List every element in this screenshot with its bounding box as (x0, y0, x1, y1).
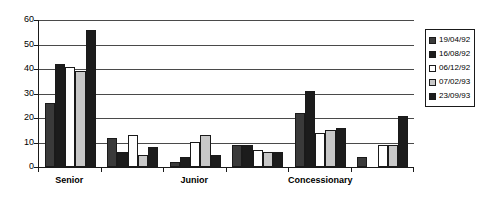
chart-legend: 19/04/9216/08/9206/12/9207/02/9323/09/93 (425, 29, 475, 107)
bar (232, 145, 242, 167)
x-tick (101, 168, 102, 172)
bar (65, 67, 75, 167)
legend-item[interactable]: 19/04/92 (429, 33, 470, 47)
bar (242, 145, 252, 167)
legend-item-label: 19/04/92 (439, 36, 470, 44)
bar (107, 138, 117, 167)
x-tick (226, 168, 227, 172)
legend-item[interactable]: 23/09/93 (429, 89, 470, 103)
bar (117, 152, 127, 167)
y-tick-label-20: 20 (24, 113, 34, 122)
bar (170, 162, 180, 167)
bar (45, 103, 55, 167)
bar (398, 116, 408, 167)
legend-item[interactable]: 07/02/93 (429, 75, 470, 89)
legend-item-label: 06/12/92 (439, 64, 470, 72)
bar-group (164, 20, 227, 167)
x-tick (288, 168, 289, 172)
bar (263, 152, 273, 167)
y-tick-label-60: 60 (24, 15, 34, 24)
x-axis-label-junior: Junior (163, 175, 226, 185)
legend-item[interactable]: 16/08/92 (429, 47, 470, 61)
y-tick-label-30: 30 (24, 89, 34, 98)
y-axis-labels: 0102030405060 (4, 20, 34, 168)
bar-group (227, 20, 290, 167)
x-axis-label-senior: Senior (38, 175, 101, 185)
legend-item[interactable]: 06/12/92 (429, 61, 470, 75)
bar (190, 142, 200, 167)
bar (378, 145, 388, 167)
bar (200, 135, 210, 167)
y-tick-label-0: 0 (29, 162, 34, 171)
bar (357, 157, 367, 167)
y-tick-label-40: 40 (24, 64, 34, 73)
black-swatch (429, 51, 436, 58)
bar (305, 91, 315, 167)
bar (138, 155, 148, 167)
white-swatch (429, 65, 436, 72)
x-axis-label-concessionary: Concessionary (288, 175, 351, 185)
bar (325, 130, 335, 167)
bar-group (352, 20, 415, 167)
x-tick (413, 168, 414, 172)
bar (128, 135, 138, 167)
x-tick (163, 168, 164, 172)
bar-chart-figure: 0102030405060 SeniorJuniorConcessionary … (0, 0, 503, 197)
bar (211, 155, 221, 167)
bar (315, 133, 325, 167)
bar-series-container (39, 20, 414, 167)
bar (75, 71, 85, 167)
plot-area: 0102030405060 SeniorJuniorConcessionary (38, 20, 414, 168)
black-swatch (429, 93, 436, 100)
x-tick (38, 168, 39, 172)
bar (253, 150, 263, 167)
dark-gray-swatch (429, 37, 436, 44)
bar-group (289, 20, 352, 167)
y-tick-label-10: 10 (24, 138, 34, 147)
legend-item-label: 16/08/92 (439, 50, 470, 58)
legend-item-label: 23/09/93 (439, 92, 470, 100)
light-gray-swatch (429, 79, 436, 86)
bar (180, 157, 190, 167)
y-tick-label-50: 50 (24, 40, 34, 49)
bar-group (102, 20, 165, 167)
bar (148, 147, 158, 167)
x-tick (351, 168, 352, 172)
bar-group (39, 20, 102, 167)
bar (295, 113, 305, 167)
bar (86, 30, 96, 167)
bar (388, 145, 398, 167)
bar (55, 64, 65, 167)
bar (273, 152, 283, 167)
bar (336, 128, 346, 167)
legend-item-label: 07/02/93 (439, 78, 470, 86)
